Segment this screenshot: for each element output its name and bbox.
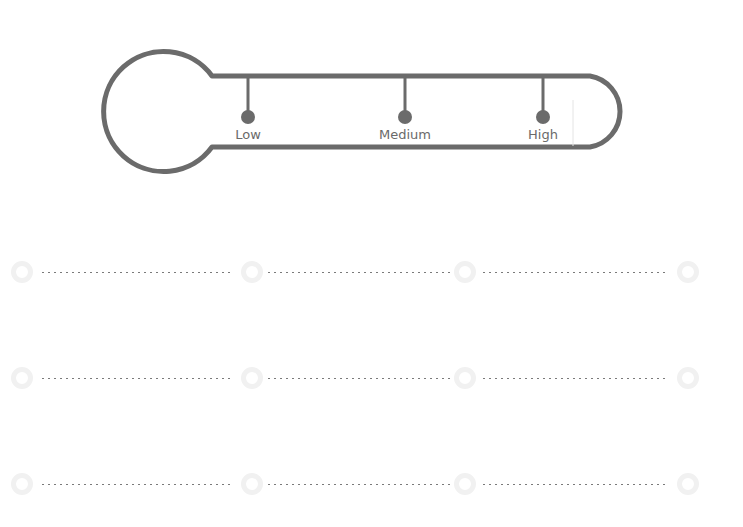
- answer-row-3: [0, 469, 743, 499]
- tick-medium: [398, 78, 412, 124]
- ring-icon: [454, 473, 476, 495]
- blank-line[interactable]: [481, 377, 669, 380]
- ring-icon: [454, 367, 476, 389]
- tick-high: [536, 78, 550, 124]
- blank-line[interactable]: [481, 483, 669, 486]
- ring-icon: [241, 473, 263, 495]
- ring-icon: [11, 367, 33, 389]
- blank-line[interactable]: [40, 271, 230, 274]
- ring-icon: [677, 473, 699, 495]
- ring-icon: [454, 261, 476, 283]
- blank-line[interactable]: [266, 377, 452, 380]
- blank-line[interactable]: [266, 483, 452, 486]
- ring-icon: [241, 367, 263, 389]
- blank-line[interactable]: [40, 377, 230, 380]
- tick-low: [241, 78, 255, 124]
- ring-icon: [11, 473, 33, 495]
- ring-icon: [677, 367, 699, 389]
- ring-icon: [677, 261, 699, 283]
- level-label-low: Low: [235, 127, 261, 142]
- level-label-high: High: [528, 127, 558, 142]
- ring-icon: [11, 261, 33, 283]
- blank-line[interactable]: [40, 483, 230, 486]
- answer-row-2: [0, 363, 743, 393]
- answer-row-1: [0, 257, 743, 287]
- blank-line[interactable]: [266, 271, 452, 274]
- level-label-medium: Medium: [379, 127, 431, 142]
- ring-icon: [241, 261, 263, 283]
- blank-line[interactable]: [481, 271, 669, 274]
- thermometer-graphic: [0, 0, 743, 200]
